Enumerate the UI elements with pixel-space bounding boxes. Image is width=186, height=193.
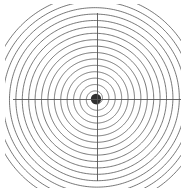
spiral-figure — [0, 0, 186, 193]
spiral-plot-canvas — [0, 0, 186, 193]
